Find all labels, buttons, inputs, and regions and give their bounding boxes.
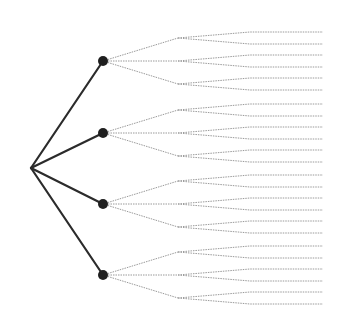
leaf-edge [178,110,323,116]
secondary-edge [103,252,178,275]
secondary-edge [103,275,178,298]
leaf-edge [178,275,323,281]
leaf-edge [178,78,323,84]
leaf-edge [178,292,323,298]
branch-node [98,128,108,138]
leaf-edge [178,175,323,181]
leaf-edge [178,133,323,139]
leaf-edge [178,181,323,187]
secondary-edge [103,204,178,227]
secondary-edge [103,61,178,84]
secondary-edge [103,133,178,156]
leaf-edge [178,84,323,90]
branch-nodes [98,56,108,280]
leaf-edge [178,198,323,204]
leaf-edge [178,252,323,258]
secondary-edge [103,38,178,61]
primary-edge [31,168,103,275]
leaf-edge [178,55,323,61]
branch-node [98,270,108,280]
primary-branches [31,61,103,275]
leaf-edge [178,221,323,227]
branch-node [98,56,108,66]
primary-edge [31,61,103,168]
secondary-edge [103,110,178,133]
leaf-edge [178,32,323,38]
branch-node [98,199,108,209]
leaf-edge [178,104,323,110]
leaf-edge [178,204,323,210]
leaf-edge [178,127,323,133]
leaf-edge [178,298,323,304]
leaf-edge [178,150,323,156]
leaf-edge [178,61,323,67]
secondary-edge [103,181,178,204]
leaf-edge [178,227,323,233]
leaf-branches [103,32,323,304]
tree-diagram [0,0,346,329]
leaf-edge [178,38,323,44]
leaf-edge [178,156,323,162]
leaf-edge [178,269,323,275]
leaf-edge [178,246,323,252]
